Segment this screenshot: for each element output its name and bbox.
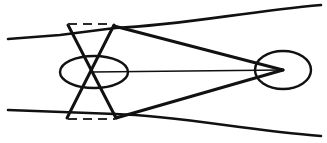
figure-canvas (0, 0, 327, 143)
beam-diagram-svg (0, 0, 327, 143)
